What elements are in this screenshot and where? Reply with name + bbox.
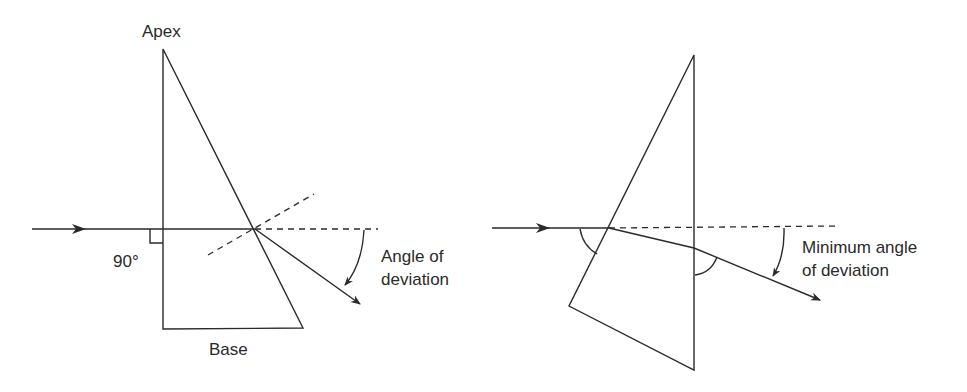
min-deviation-label-line1: Minimum angle — [802, 238, 917, 257]
min-deviation-label-line2: of deviation — [802, 261, 889, 280]
figure-prism-deviation: Apex 90° Base Angle of deviation — [32, 22, 449, 359]
apex-label: Apex — [142, 22, 181, 41]
deviation-label-line2: deviation — [381, 270, 449, 289]
prism-triangle — [163, 49, 303, 329]
right-angle-marker — [150, 229, 163, 243]
refracted-ray — [609, 228, 694, 248]
min-deviation-angle-arc — [773, 228, 784, 276]
emergence-angle-arc — [695, 257, 717, 275]
diagram-canvas: Apex 90° Base Angle of deviation Minimum… — [0, 0, 967, 392]
deviation-angle-arc — [345, 230, 364, 285]
emergent-ray — [255, 229, 360, 304]
prism-triangle-rotated — [569, 55, 694, 370]
deviation-label-line1: Angle of — [381, 247, 444, 266]
right-angle-label: 90° — [113, 252, 139, 271]
extended-ray — [609, 226, 838, 228]
base-label: Base — [209, 340, 248, 359]
incidence-angle-arc — [580, 229, 597, 254]
figure-prism-minimum-deviation: Minimum angle of deviation — [492, 55, 917, 370]
